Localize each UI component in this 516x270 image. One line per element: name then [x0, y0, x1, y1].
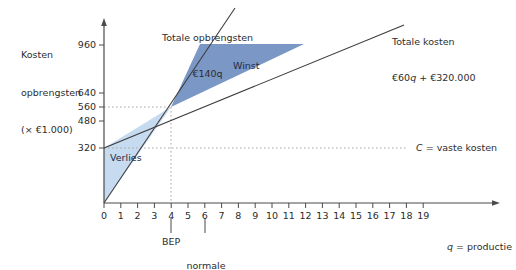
- x-axis-title-line1: q = productie: [396, 241, 512, 254]
- y-tick-label-560: 560: [62, 101, 96, 113]
- y-tick-label-640: 640: [62, 87, 96, 99]
- y-tick-marks: [99, 45, 104, 148]
- total-cost-annotation: Totale kosten €60q + €320.000: [392, 12, 514, 108]
- x-axis-title: q = productie = verkoop (× 1 000 eenhede…: [396, 216, 512, 270]
- y-axis-arrow: [101, 18, 107, 26]
- y-tick-label-960: 960: [62, 39, 96, 51]
- fixed-cost-annotation: C = vaste kosten: [416, 142, 516, 154]
- x-tick-marks: [104, 203, 423, 208]
- fixed-cost-text: = vaste kosten: [423, 142, 498, 153]
- y-tick-label-480: 480: [62, 115, 96, 127]
- total-revenue-annotation: Totale opbrengsten €140q: [150, 8, 265, 104]
- loss-region-label: Verlies: [110, 152, 142, 163]
- normal-capacity-label-line1: normale: [175, 260, 237, 270]
- normal-capacity-label: normale bezetting: [175, 236, 237, 270]
- total-revenue-title: Totale opbrengsten: [150, 32, 265, 44]
- break-even-chart: Kosten opbrengsten (× €1.000) 960 640 56…: [0, 0, 516, 270]
- profit-region-label: Winst: [233, 60, 260, 71]
- y-tick-label-320: 320: [62, 142, 96, 154]
- x-axis-arrow: [492, 200, 500, 206]
- total-cost-formula: €60q + €320.000: [392, 72, 514, 84]
- fixed-cost-c-symbol: C: [416, 142, 423, 153]
- total-cost-title: Totale kosten: [392, 36, 514, 48]
